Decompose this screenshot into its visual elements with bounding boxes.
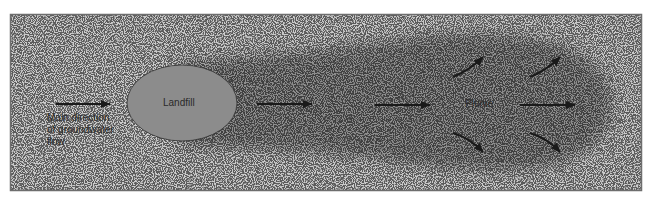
flow-caption-line-3: flow xyxy=(47,136,114,148)
flow-caption: Main direction of groundwater flow xyxy=(47,112,114,148)
flow-caption-line-1: Main direction xyxy=(47,112,114,124)
landfill-plume-diagram xyxy=(0,0,652,199)
landfill-label: Landfill xyxy=(163,97,195,109)
plume-label: Plume xyxy=(465,98,493,110)
flow-caption-line-2: of groundwater xyxy=(47,124,114,136)
speckle-texture xyxy=(11,15,641,190)
